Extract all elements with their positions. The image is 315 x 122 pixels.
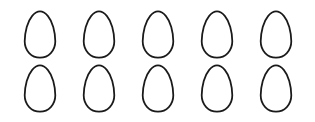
egg-icon xyxy=(82,64,116,113)
egg-icon xyxy=(23,10,57,59)
egg-icon xyxy=(200,10,234,59)
egg-6 xyxy=(10,62,69,117)
egg-10 xyxy=(246,62,305,117)
illustration-canvas xyxy=(0,0,315,122)
egg-icon xyxy=(141,10,175,59)
egg-icon xyxy=(141,64,175,113)
egg-icon xyxy=(259,64,293,113)
egg-7 xyxy=(69,62,128,117)
egg-icon xyxy=(23,64,57,113)
egg-1 xyxy=(10,7,69,62)
egg-4 xyxy=(187,7,246,62)
egg-8 xyxy=(128,62,187,117)
egg-icon xyxy=(200,64,234,113)
egg-9 xyxy=(187,62,246,117)
egg-icon xyxy=(82,10,116,59)
egg-icon xyxy=(259,10,293,59)
egg-5 xyxy=(246,7,305,62)
egg-grid xyxy=(0,0,315,122)
egg-3 xyxy=(128,7,187,62)
egg-2 xyxy=(69,7,128,62)
